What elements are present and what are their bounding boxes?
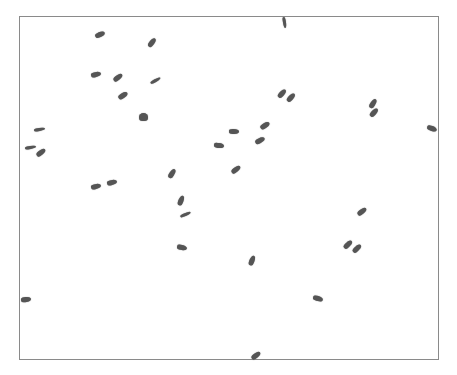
particle — [229, 129, 239, 134]
image-frame — [19, 16, 439, 360]
particle — [139, 113, 148, 121]
image-canvas — [0, 0, 457, 375]
